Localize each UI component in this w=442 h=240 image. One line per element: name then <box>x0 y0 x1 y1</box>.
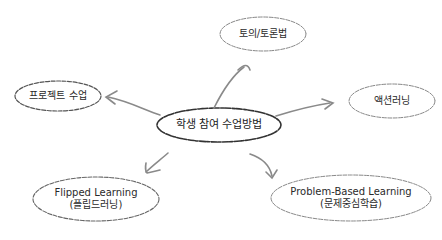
node-sublabel-flipped: (플립드러닝) <box>54 199 137 211</box>
arrow-to-action <box>276 103 330 116</box>
node-flipped: Flipped Learning (플립드러닝) <box>54 187 137 211</box>
node-pbl: Problem-Based Learning (문제중심학습) <box>290 186 411 210</box>
arrowhead-flipped-icon <box>146 163 160 173</box>
node-label-pbl: Problem-Based Learning <box>290 186 411 197</box>
node-label-flipped: Flipped Learning <box>54 187 137 198</box>
node-label-debate: 토의/토론법 <box>239 28 287 40</box>
arrow-to-flipped <box>146 153 168 172</box>
node-sublabel-pbl: (문제중심학습) <box>290 198 411 210</box>
arrow-to-project <box>108 97 160 115</box>
center-node-label: 학생 참여 수업방법 <box>176 119 263 131</box>
arrow-to-pbl <box>250 154 272 176</box>
arrow-to-debate <box>214 67 244 108</box>
node-label-project: 프로젝트 수업 <box>29 90 86 102</box>
node-label-action: 액션러닝 <box>374 95 410 107</box>
